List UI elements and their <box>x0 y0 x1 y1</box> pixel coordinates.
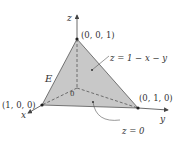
point-right <box>136 106 139 109</box>
y-axis <box>138 108 168 110</box>
tetrahedron-diagram: z (0, 0, 1) z = 1 − x − y E 0 (1, 0, 0) … <box>0 0 179 151</box>
z-axis-label: z <box>66 13 72 23</box>
x-axis-label: x <box>21 110 26 120</box>
region-label: E <box>44 73 53 84</box>
point-top <box>75 37 78 40</box>
point-right-label: (0, 1, 0) <box>139 93 173 103</box>
origin-label: 0 <box>70 90 74 98</box>
bottom-surface-label: z = 0 <box>121 126 145 136</box>
point-left-label: (1, 0, 0) <box>2 100 36 110</box>
point-left <box>40 103 43 106</box>
point-top-label: (0, 0, 1) <box>81 30 115 40</box>
top-surface-label: z = 1 − x − y <box>109 53 167 63</box>
y-axis-label: y <box>159 114 166 124</box>
